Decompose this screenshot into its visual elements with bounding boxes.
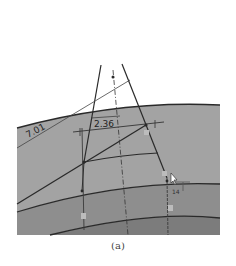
marker-lower-right xyxy=(168,205,173,211)
right-point xyxy=(144,123,147,126)
left-point xyxy=(82,160,85,163)
lower-left-point xyxy=(81,190,84,193)
marker-right xyxy=(144,130,149,135)
figure-caption: (a) xyxy=(0,240,236,251)
marker-cursor-area xyxy=(162,171,167,176)
layer-bands xyxy=(17,104,220,235)
apex-point xyxy=(112,76,115,79)
cad-sketch-diagram: 7.01 2.36 14 xyxy=(0,0,236,266)
marker-lower-left xyxy=(81,213,86,219)
dimension-label-top: 2.36 xyxy=(94,119,114,129)
dimension-label-small: 14 xyxy=(172,188,180,195)
lower-right-point xyxy=(166,180,169,183)
